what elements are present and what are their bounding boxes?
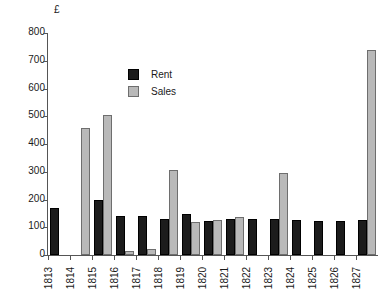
bar-group — [48, 33, 70, 255]
x-axis-label: 1818 — [153, 267, 165, 289]
x-axis-label: 1816 — [109, 267, 121, 289]
bar-slot — [336, 33, 345, 255]
y-axis-tick-label: 300 — [28, 165, 45, 177]
bar-groups — [48, 33, 378, 255]
x-axis-tick — [70, 256, 92, 261]
x-axis-labels: 1813181418151816181718181819182018211822… — [48, 262, 378, 302]
y-axis-tick-label: 200 — [28, 193, 45, 205]
bar-slot — [358, 33, 367, 255]
legend-swatch-rent-icon — [128, 69, 139, 80]
bar-sales — [103, 115, 112, 255]
x-axis-tick-mark — [92, 256, 93, 260]
y-axis-tick-label: 600 — [28, 82, 45, 94]
bar-rent — [270, 219, 279, 255]
x-axis-tick — [180, 256, 202, 261]
x-axis-tick-mark — [136, 256, 137, 260]
bar-group — [290, 33, 312, 255]
bar-sales — [191, 222, 200, 255]
x-axis-tick-mark — [268, 256, 269, 260]
x-axis-label: 1814 — [65, 267, 77, 289]
bar-slot — [103, 33, 112, 255]
legend-item-rent: Rent — [128, 66, 176, 83]
bar-rent — [204, 221, 213, 255]
x-axis-tick-mark — [356, 256, 357, 260]
x-axis-label: 1819 — [175, 267, 187, 289]
bar-group — [334, 33, 356, 255]
bar-group — [70, 33, 92, 255]
bar-rent — [336, 221, 345, 255]
bar-sales — [125, 251, 134, 255]
x-axis-label: 1823 — [263, 267, 275, 289]
x-axis-tick-mark — [290, 256, 291, 260]
x-axis-label-cell: 1827 — [356, 262, 378, 302]
x-axis-tick — [136, 256, 158, 261]
bar-sales — [235, 217, 244, 255]
x-axis-tick — [268, 256, 290, 261]
plot-area — [48, 33, 378, 255]
bar-group — [224, 33, 246, 255]
bar-slot — [314, 33, 323, 255]
bar-group — [246, 33, 268, 255]
x-axis-tick — [202, 256, 224, 261]
y-axis-tick-label: 800 — [28, 26, 45, 38]
x-axis-tick — [334, 256, 356, 261]
bar-slot — [301, 33, 310, 255]
x-axis-tick-mark — [158, 256, 159, 260]
x-axis-tick — [312, 256, 334, 261]
x-axis-tick-mark — [180, 256, 181, 260]
bar-slot — [345, 33, 354, 255]
bar-slot — [94, 33, 103, 255]
x-axis-tick — [48, 256, 70, 261]
y-axis-tick-label: 0 — [39, 248, 45, 260]
bar-slot — [292, 33, 301, 255]
x-axis-label: 1815 — [87, 267, 99, 289]
x-axis-tick-mark — [202, 256, 203, 260]
bar-group — [268, 33, 290, 255]
bar-slot — [72, 33, 81, 255]
legend-label-rent: Rent — [151, 69, 172, 81]
y-axis-tick-label: 400 — [28, 137, 45, 149]
bar-slot — [235, 33, 244, 255]
x-axis-tick-mark — [334, 256, 335, 260]
legend-item-sales: Sales — [128, 83, 176, 100]
bar-slot — [204, 33, 213, 255]
x-axis-label: 1822 — [241, 267, 253, 289]
legend-label-sales: Sales — [151, 86, 176, 98]
bar-rent — [314, 221, 323, 255]
x-axis-tick — [158, 256, 180, 261]
bar-rent — [292, 220, 301, 255]
bar-slot — [81, 33, 90, 255]
x-axis-tick-mark — [312, 256, 313, 260]
bar-slot — [270, 33, 279, 255]
x-axis-tick — [224, 256, 246, 261]
x-axis-label: 1825 — [307, 267, 319, 289]
bar-rent — [116, 216, 125, 255]
x-axis-tick — [356, 256, 378, 261]
bar-rent — [94, 200, 103, 255]
x-axis-label: 1821 — [219, 267, 231, 289]
bar-group — [356, 33, 378, 255]
bar-slot — [59, 33, 68, 255]
bar-rent — [226, 219, 235, 255]
x-axis-label: 1824 — [285, 267, 297, 289]
bar-group — [180, 33, 202, 255]
bar-rent — [160, 219, 169, 255]
bar-slot — [50, 33, 59, 255]
x-axis-tick-mark — [224, 256, 225, 260]
bar-slot — [213, 33, 222, 255]
bar-rent — [248, 219, 257, 255]
bar-sales — [81, 128, 90, 255]
bar-sales — [147, 249, 156, 255]
bar-slot — [279, 33, 288, 255]
bar-slot — [257, 33, 266, 255]
bar-rent — [358, 220, 367, 255]
bar-rent — [50, 208, 59, 255]
bar-slot — [226, 33, 235, 255]
bar-group — [202, 33, 224, 255]
y-axis-tick-label: 700 — [28, 54, 45, 66]
bar-sales — [279, 173, 288, 255]
bar-sales — [367, 50, 376, 255]
y-axis-title: £ — [54, 4, 60, 16]
bar-rent — [138, 216, 147, 255]
y-axis-tick-label: 500 — [28, 109, 45, 121]
